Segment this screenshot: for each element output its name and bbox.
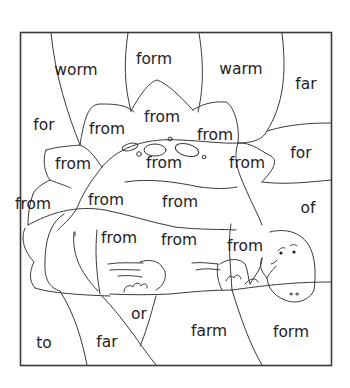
word-region-from[interactable]: from xyxy=(229,154,265,172)
word-region-far[interactable]: far xyxy=(96,333,118,351)
word-region-from[interactable]: from xyxy=(227,237,263,255)
word-labels[interactable]: worm form warm far for from from from fo… xyxy=(15,50,317,352)
word-region-from[interactable]: from xyxy=(89,120,125,138)
word-region-from[interactable]: from xyxy=(161,231,197,249)
word-region-from[interactable]: from xyxy=(162,193,198,211)
word-region-from[interactable]: from xyxy=(101,229,137,247)
word-region-worm[interactable]: worm xyxy=(54,61,97,79)
word-region-warm[interactable]: warm xyxy=(219,60,262,78)
word-region-from[interactable]: from xyxy=(88,191,124,209)
word-region-for[interactable]: for xyxy=(290,144,312,162)
word-region-for[interactable]: for xyxy=(33,116,55,134)
dino-eye-left xyxy=(279,251,282,254)
word-region-from[interactable]: from xyxy=(55,155,91,173)
word-region-from[interactable]: from xyxy=(15,195,51,213)
word-region-form[interactable]: form xyxy=(273,323,309,341)
word-region-to[interactable]: to xyxy=(36,334,52,352)
word-region-from[interactable]: from xyxy=(146,154,182,172)
word-region-form[interactable]: form xyxy=(136,50,172,68)
word-region-farm[interactable]: farm xyxy=(191,322,227,340)
dino-eye-right xyxy=(292,250,295,253)
word-region-of[interactable]: of xyxy=(301,199,316,217)
word-region-from[interactable]: from xyxy=(197,126,233,144)
word-region-far[interactable]: far xyxy=(295,75,317,93)
coloring-worksheet: worm form warm far for from from from fo… xyxy=(0,0,350,388)
word-region-or[interactable]: or xyxy=(131,305,147,323)
word-region-from[interactable]: from xyxy=(144,108,180,126)
